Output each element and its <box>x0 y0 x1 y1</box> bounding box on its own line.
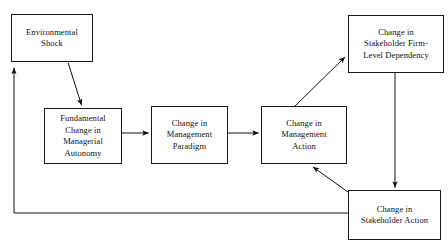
edge-action-to-dependency <box>294 57 345 107</box>
node-change-stakeholder-action-label: Change in Stakeholder Action <box>359 204 430 227</box>
node-change-stakeholder-firm-level-dependency-label: Change in Stakeholder Firm- Level Depend… <box>361 27 431 62</box>
node-environmental-shock-label: Environmental Shock <box>24 27 80 50</box>
node-change-stakeholder-firm-level-dependency: Change in Stakeholder Firm- Level Depend… <box>348 15 444 73</box>
node-change-management-action-label: Change in Management Action <box>279 118 328 153</box>
node-change-management-action: Change in Management Action <box>261 106 347 164</box>
edge-stakeholder-action-to-management-action <box>313 167 348 192</box>
edge-shock-to-autonomy <box>68 63 82 106</box>
node-fundamental-change-managerial-autonomy: Fundamental Change in Managerial Autonom… <box>44 108 122 164</box>
node-change-stakeholder-action: Change in Stakeholder Action <box>348 190 441 240</box>
node-change-management-paradigm-label: Change in Management Paradigm <box>165 118 214 153</box>
node-change-management-paradigm: Change in Management Paradigm <box>151 106 228 164</box>
node-environmental-shock: Environmental Shock <box>11 14 93 62</box>
node-fundamental-change-managerial-autonomy-label: Fundamental Change in Managerial Autonom… <box>58 113 107 159</box>
flow-diagram: Environmental Shock Fundamental Change i… <box>0 0 448 252</box>
